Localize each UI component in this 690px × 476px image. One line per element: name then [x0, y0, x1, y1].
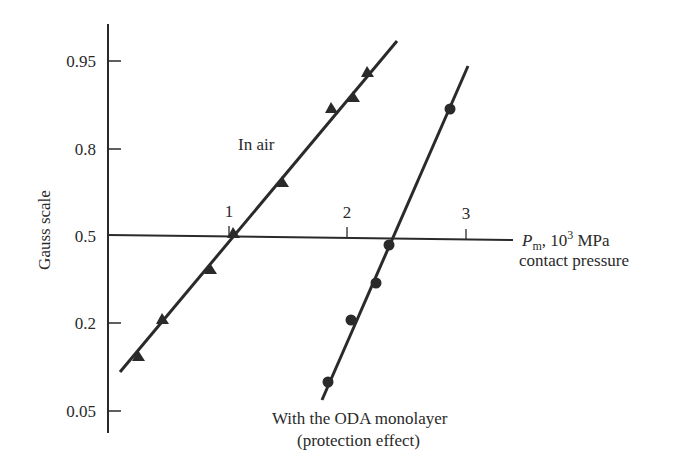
label-oda-line1: With the ODA monolayer — [272, 409, 448, 428]
x-tick-label: 3 — [462, 204, 471, 223]
chart-canvas: 0.95 0.8 0.5 0.2 0.05 Gauss scale 1 2 3 … — [0, 0, 690, 476]
y-tick-label: 0.05 — [66, 402, 96, 421]
data-point-circle — [323, 377, 334, 388]
circle-markers — [323, 104, 456, 388]
y-tick-label: 0.95 — [66, 52, 96, 71]
fit-line-oda — [322, 66, 468, 400]
y-tick-labels: 0.95 0.8 0.5 0.2 0.05 — [66, 52, 96, 421]
data-point-circle — [371, 278, 382, 289]
y-tick-label: 0.2 — [75, 314, 96, 333]
data-point-circle — [445, 104, 456, 115]
x-tick-label: 1 — [225, 202, 234, 221]
label-in-air: In air — [238, 135, 275, 154]
x-axis-title-line1: Pm, 103 MPa — [521, 228, 610, 253]
series-oda — [322, 66, 468, 400]
y-tick-label: 0.8 — [75, 140, 96, 159]
y-axis-title: Gauss scale — [35, 190, 54, 270]
data-point-triangle — [325, 102, 338, 113]
x-tick-label: 2 — [343, 203, 352, 222]
label-oda-line2: (protection effect) — [297, 431, 420, 450]
x-axis — [108, 235, 513, 240]
y-tick-label: 0.5 — [75, 227, 96, 246]
x-axis-title-line2: contact pressure — [519, 251, 629, 270]
data-point-circle — [346, 315, 357, 326]
data-point-circle — [384, 240, 395, 251]
